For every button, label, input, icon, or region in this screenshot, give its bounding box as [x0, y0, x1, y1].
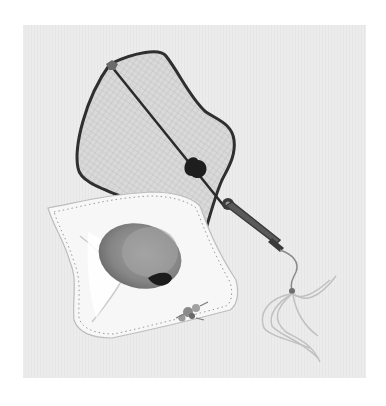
- tassel: [262, 250, 336, 362]
- still-life-illustration: [0, 0, 386, 406]
- fan-handle: [226, 202, 280, 244]
- tassel-cord: [280, 250, 297, 290]
